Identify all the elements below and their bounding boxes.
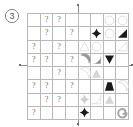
circle-outline-icon xyxy=(91,41,102,52)
grid-cell-empty[interactable] xyxy=(41,41,54,54)
triangle-up-icon xyxy=(104,94,115,105)
grid-cell-shape[interactable] xyxy=(116,107,129,120)
grid-cell-shape[interactable] xyxy=(91,54,104,67)
grid-cell-empty[interactable] xyxy=(91,107,104,120)
question-mark-glyph: ? xyxy=(32,55,36,63)
grid-cell-unknown[interactable]: ? xyxy=(53,14,66,27)
grid-cell-unknown[interactable]: ? xyxy=(41,94,54,107)
grid-cell-empty[interactable] xyxy=(53,54,66,67)
triangle-up-icon xyxy=(91,68,102,79)
grid-cell-shape[interactable] xyxy=(79,41,92,54)
question-mark-glyph: ? xyxy=(32,108,36,116)
grid-cell-empty[interactable] xyxy=(66,94,79,107)
question-mark-glyph: ? xyxy=(70,55,74,63)
grid-cell-shape[interactable] xyxy=(91,27,104,40)
puzzle-grid: ???????????????? xyxy=(27,13,129,120)
alignment-dot-right xyxy=(131,64,133,66)
question-mark-glyph: ? xyxy=(70,29,74,37)
question-mark-glyph: ? xyxy=(57,69,61,77)
grid-cell-unknown[interactable]: ? xyxy=(41,27,54,40)
panel-number-text: 3 xyxy=(4,8,20,24)
grid-cell-unknown[interactable]: ? xyxy=(66,80,79,93)
question-mark-glyph: ? xyxy=(70,82,74,90)
grid-cell-empty[interactable] xyxy=(41,67,54,80)
grid-cell-shape[interactable] xyxy=(79,67,92,80)
question-mark-glyph: ? xyxy=(45,82,49,90)
four-point-star-icon xyxy=(79,107,90,118)
question-mark-glyph: ? xyxy=(45,16,49,24)
question-mark-glyph: ? xyxy=(45,29,49,37)
grid-cell-empty[interactable] xyxy=(116,94,129,107)
question-mark-glyph: ? xyxy=(57,42,61,50)
circle-outline-icon xyxy=(117,15,128,26)
grid-cell-empty[interactable] xyxy=(91,14,104,27)
grid-cell-shape[interactable] xyxy=(91,67,104,80)
triangle-outline-icon xyxy=(79,41,90,52)
grid-cell-shape[interactable] xyxy=(91,41,104,54)
grid-cell-unknown[interactable]: ? xyxy=(53,41,66,54)
right-triangle-icon xyxy=(117,28,128,39)
grid-cell-shape[interactable] xyxy=(116,80,129,93)
grid-cell-shape[interactable] xyxy=(116,41,129,54)
grid-cell-shape[interactable] xyxy=(79,107,92,120)
question-mark-glyph: ? xyxy=(32,82,36,90)
grid-cell-unknown[interactable]: ? xyxy=(28,54,41,67)
grid-cell-empty[interactable] xyxy=(53,27,66,40)
grid-cell-empty[interactable] xyxy=(79,27,92,40)
grid-cell-shape[interactable] xyxy=(79,94,92,107)
alignment-dot-bottom xyxy=(77,123,79,125)
grid-cell-shape[interactable] xyxy=(91,94,104,107)
grid-cell-empty[interactable] xyxy=(91,80,104,93)
grid-cell-empty[interactable] xyxy=(53,107,66,120)
question-mark-glyph: ? xyxy=(45,55,49,63)
grid-cell-empty[interactable] xyxy=(66,41,79,54)
question-mark-glyph: ? xyxy=(57,16,61,24)
grid-cell-unknown[interactable]: ? xyxy=(66,54,79,67)
grid-cell-empty[interactable] xyxy=(28,67,41,80)
grid-cell-empty[interactable] xyxy=(104,107,117,120)
grid-cell-unknown[interactable]: ? xyxy=(41,54,54,67)
circle-outline-icon xyxy=(104,28,115,39)
puzzle-panel: 3 ???????????????? xyxy=(0,0,133,127)
grid-cell-shape[interactable] xyxy=(104,80,117,93)
grid-cell-unknown[interactable]: ? xyxy=(28,41,41,54)
grid-cell-shape[interactable] xyxy=(104,14,117,27)
grid-cell-empty[interactable] xyxy=(104,67,117,80)
grid-cell-unknown[interactable]: ? xyxy=(41,14,54,27)
question-mark-glyph: ? xyxy=(57,95,61,103)
grid-cell-shape[interactable] xyxy=(116,14,129,27)
question-mark-glyph: ? xyxy=(32,42,36,50)
grid-cell-unknown[interactable]: ? xyxy=(28,107,41,120)
grid-cell-unknown[interactable]: ? xyxy=(41,80,54,93)
quarter-pie-icon xyxy=(91,54,102,65)
triangle-down-icon xyxy=(104,54,115,65)
grid-cell-shape[interactable] xyxy=(104,27,117,40)
grid-cell-empty[interactable] xyxy=(66,14,79,27)
grid-cell-shape[interactable] xyxy=(104,94,117,107)
grid-cell-empty[interactable] xyxy=(53,80,66,93)
grid-cell-unknown[interactable]: ? xyxy=(66,27,79,40)
grid-cell-empty[interactable] xyxy=(79,14,92,27)
grid-cell-empty[interactable] xyxy=(116,67,129,80)
grid-cell-empty[interactable] xyxy=(66,67,79,80)
grid-cell-unknown[interactable]: ? xyxy=(53,94,66,107)
grid-cell-empty[interactable] xyxy=(41,107,54,120)
grid-cell-empty[interactable] xyxy=(116,54,129,67)
alignment-dot-left xyxy=(19,64,21,66)
grid-cell-empty[interactable] xyxy=(28,94,41,107)
grid-cell-unknown[interactable]: ? xyxy=(53,67,66,80)
grid-cell-empty[interactable] xyxy=(66,107,79,120)
alignment-dot-top xyxy=(77,4,79,6)
grid-cell-unknown[interactable]: ? xyxy=(28,80,41,93)
right-triangle-outline-icon xyxy=(117,41,128,52)
grid-cell-shape[interactable] xyxy=(79,54,92,67)
four-point-star-icon xyxy=(91,28,102,39)
grid-cell-empty[interactable] xyxy=(104,41,117,54)
grid-cell-shape[interactable] xyxy=(116,27,129,40)
trapezoid-icon xyxy=(104,81,115,92)
grid-cell-empty[interactable] xyxy=(28,14,41,27)
circle-outline-icon xyxy=(104,15,115,26)
grid-cell-shape[interactable] xyxy=(104,54,117,67)
grid-cell-empty[interactable] xyxy=(79,80,92,93)
grid-cell-empty[interactable] xyxy=(28,27,41,40)
